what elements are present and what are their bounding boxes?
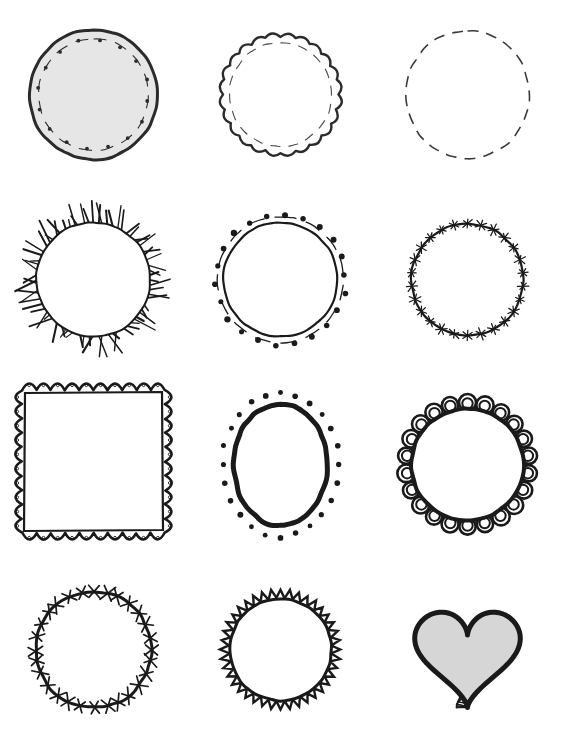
decor-dot — [249, 399, 255, 405]
decor-dot — [85, 147, 89, 151]
bold-scalloped-circle-frame — [374, 370, 561, 555]
decor-dot — [307, 401, 313, 407]
decor-dot — [329, 498, 334, 503]
frame-cell-8 — [187, 370, 374, 555]
decor-dot — [229, 426, 234, 431]
frame-cell-1 — [0, 0, 187, 185]
decor-dot — [339, 254, 345, 260]
dashed-outline — [406, 31, 530, 159]
frame-cell-12 — [374, 555, 561, 740]
spike — [121, 210, 124, 231]
decor-dot — [341, 272, 347, 278]
decor-dot — [343, 291, 349, 297]
frame-cell-9 — [374, 370, 561, 555]
barbed-star-circle-frame — [374, 185, 561, 370]
decor-dot — [324, 323, 330, 329]
decor-dot — [249, 524, 254, 529]
decor-dot — [292, 394, 298, 400]
spike — [83, 336, 93, 353]
decor-dot — [319, 512, 324, 517]
frame-outline — [29, 30, 157, 160]
frame-cell-11 — [187, 555, 374, 740]
frame-outline — [411, 409, 524, 521]
frame-cell-5 — [187, 185, 374, 370]
decor-dot — [221, 443, 226, 448]
gray-heart-ladder-border-frame — [374, 555, 561, 740]
decor-dot — [231, 230, 237, 236]
decor-dot — [247, 221, 252, 226]
decor-dot — [58, 50, 62, 54]
decor-dot — [273, 343, 278, 348]
spike — [31, 309, 45, 312]
decor-dot — [221, 246, 227, 252]
spike — [37, 311, 47, 328]
scalloped-square-lace-frame — [0, 370, 187, 555]
frame-cell-10 — [0, 555, 187, 740]
spike — [92, 201, 93, 224]
decor-dot — [282, 212, 288, 218]
decor-dot — [237, 512, 243, 518]
decor-dot — [38, 108, 42, 112]
decor-dot — [145, 78, 149, 82]
sunburst-spiky-circle-frame — [0, 185, 187, 370]
decor-dot — [239, 329, 244, 334]
frame-cell-3 — [374, 0, 561, 185]
heart-shape — [415, 612, 521, 707]
decor-dot — [292, 340, 298, 346]
decor-dot — [36, 86, 40, 90]
decor-dot — [212, 281, 218, 287]
frame-outline — [36, 223, 150, 337]
decor-dot — [336, 462, 341, 467]
spike — [23, 304, 43, 309]
decor-dot — [77, 39, 81, 43]
circle-dashed-ring-dots-frame — [187, 185, 374, 370]
decor-dot — [255, 337, 261, 343]
decor-dot — [218, 299, 223, 304]
decor-dot — [317, 224, 323, 230]
spike — [118, 206, 121, 229]
spike — [139, 312, 155, 324]
decor-dot — [328, 426, 334, 432]
decor-dot — [300, 216, 305, 221]
decor-dot — [228, 498, 234, 504]
frame-cell-6 — [374, 185, 561, 370]
zigzag-sawtooth-circle-frame — [187, 555, 374, 740]
spike — [146, 254, 161, 260]
decor-dot — [293, 530, 299, 536]
decor-dot — [263, 393, 269, 399]
decor-dot — [264, 214, 269, 219]
spike — [39, 221, 50, 244]
frame-outline — [36, 592, 152, 707]
decor-dot — [106, 145, 110, 149]
scallop-outline — [220, 34, 342, 156]
decor-dot — [44, 66, 48, 70]
frame-outline — [223, 223, 337, 337]
spike — [142, 250, 160, 252]
decor-dot — [222, 480, 228, 486]
decor-dot — [278, 390, 283, 395]
spike — [81, 204, 85, 224]
decor-dot — [334, 480, 340, 486]
decor-dot — [308, 523, 313, 528]
decor-dot — [237, 412, 242, 417]
decor-dot — [278, 535, 284, 541]
frame-outline — [411, 224, 524, 336]
decor-dot — [335, 443, 341, 449]
decor-dot — [98, 39, 102, 43]
decor-dot — [140, 120, 144, 124]
oval-with-dots-frame — [187, 370, 374, 555]
decor-dot — [126, 136, 130, 140]
decor-dot — [263, 533, 268, 538]
decor-dot — [215, 263, 220, 268]
decor-dot — [48, 127, 52, 131]
spike — [53, 322, 57, 342]
decor-dot — [331, 237, 337, 243]
scallop-lace-outline — [15, 383, 171, 539]
decor-dot — [309, 334, 315, 340]
doodle-frames-sheet — [0, 0, 561, 740]
filled-circle-dashed-dots-frame — [0, 0, 187, 185]
decor-dot — [334, 307, 340, 313]
decor-dot — [221, 462, 226, 467]
scalloped-circle-dashed-frame — [187, 0, 374, 185]
decor-dot — [224, 316, 230, 322]
